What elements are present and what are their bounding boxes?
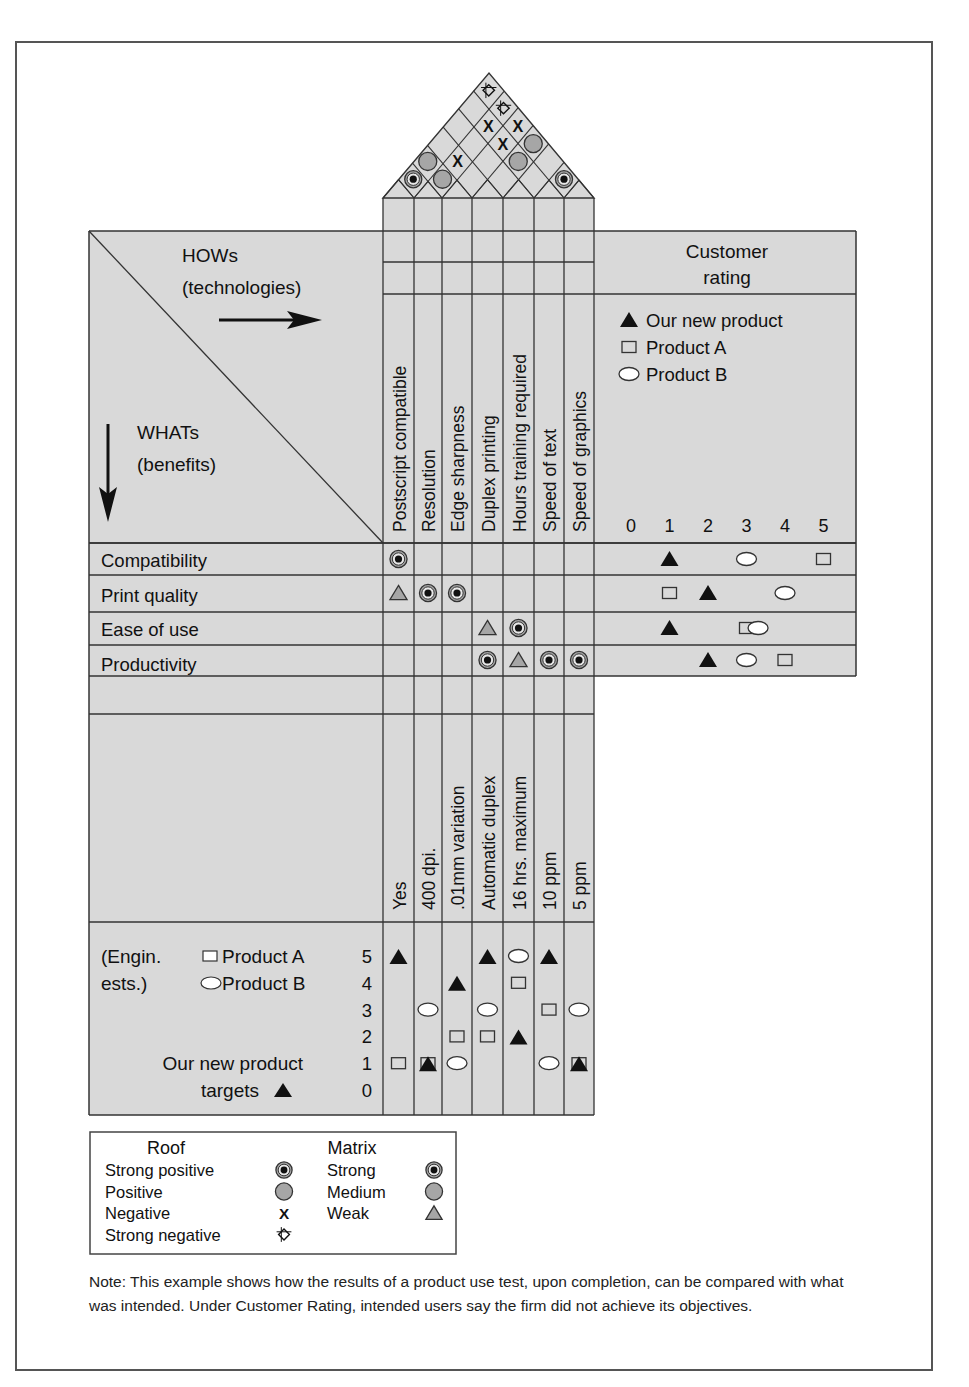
legend-label: Product B	[646, 364, 727, 385]
scale-tick: 5	[818, 516, 828, 536]
square-icon	[203, 951, 217, 961]
x-icon: X	[452, 152, 463, 170]
legend-label: Medium	[327, 1183, 386, 1201]
ellipse-icon	[447, 1057, 467, 1070]
target-value: Automatic duplex	[479, 776, 499, 910]
scale-tick: 3	[741, 516, 751, 536]
engin-label-2: ests.)	[101, 973, 147, 994]
ellipse-icon	[737, 654, 757, 667]
what-label: Compatibility	[101, 550, 208, 571]
legend-label: Weak	[327, 1204, 370, 1222]
legend-roof-title: Roof	[147, 1138, 186, 1158]
target-value: Yes	[390, 881, 410, 910]
ellipse-icon	[619, 368, 639, 381]
engin-label-1: (Engin.	[101, 946, 161, 967]
scale-tick: 0	[362, 1080, 372, 1101]
positive-icon	[509, 152, 527, 170]
legend-label: Strong positive	[105, 1161, 214, 1179]
ellipse-icon	[775, 587, 795, 600]
legend-label: Strong	[327, 1161, 376, 1179]
ellipse-icon	[418, 1003, 438, 1016]
legend-label: Product A	[646, 337, 727, 358]
hows-subtitle: (technologies)	[182, 277, 301, 298]
how-label: Hours training required	[510, 354, 530, 532]
x-icon: X	[279, 1205, 290, 1222]
square-icon	[817, 554, 831, 565]
scale-tick: 4	[362, 973, 372, 994]
square-icon	[392, 1058, 406, 1069]
how-label: Edge sharpness	[448, 405, 468, 532]
hows-title: HOWs	[182, 245, 238, 266]
whats-title: WHATs	[137, 422, 199, 443]
targets-label-2: targets	[201, 1080, 259, 1101]
target-value: 400 dpi.	[419, 848, 439, 910]
ellipse-icon	[539, 1057, 559, 1070]
legend-label: Negative	[105, 1204, 170, 1222]
how-label: Duplex printing	[479, 415, 499, 532]
target-value: 16 hrs. maximum	[510, 776, 530, 910]
scale-tick: 1	[664, 516, 674, 536]
note-text: Note: This example shows how the results…	[89, 1270, 869, 1318]
target-value: 10 ppm	[540, 852, 560, 910]
how-label: Resolution	[419, 449, 439, 532]
ellipse-icon	[509, 950, 529, 963]
x-icon: X	[513, 117, 524, 135]
ellipse-icon	[569, 1003, 589, 1016]
legend-label: Positive	[105, 1183, 163, 1201]
scale-tick: 4	[780, 516, 790, 536]
what-label: Ease of use	[101, 619, 199, 640]
what-label: Productivity	[101, 654, 197, 675]
engin-legend-b: Product B	[222, 973, 305, 994]
scale-tick: 2	[703, 516, 713, 536]
square-icon	[542, 1004, 556, 1015]
ellipse-icon	[737, 553, 757, 566]
engin-legend-a: Product A	[222, 946, 305, 967]
square-icon	[622, 342, 636, 353]
positive-icon	[419, 152, 437, 170]
targets-label-1: Our new product	[163, 1053, 304, 1074]
ellipse-icon	[478, 1003, 498, 1016]
medium-icon	[425, 1183, 442, 1200]
how-label: Speed of graphics	[570, 391, 590, 532]
x-icon: X	[498, 135, 509, 153]
how-label: Speed of text	[540, 429, 560, 532]
positive-icon	[524, 135, 542, 153]
scale-tick: 5	[362, 946, 372, 967]
customer-rating-title-2: rating	[703, 267, 751, 288]
square-icon	[778, 655, 792, 666]
target-value: 5 ppm	[570, 861, 590, 910]
scale-tick: 0	[626, 516, 636, 536]
ellipse-icon	[748, 622, 768, 635]
house-of-quality-diagram: XXXX HOWs (technologies) WHATs (benefits…	[0, 0, 969, 1387]
what-label: Print quality	[101, 585, 198, 606]
square-icon	[512, 977, 526, 988]
positive-icon	[433, 170, 451, 188]
target-value: .01mm variation	[448, 786, 468, 911]
symbol-legend: Roof Matrix Strong positivePositiveNegat…	[90, 1132, 456, 1254]
scale-tick: 1	[362, 1053, 372, 1074]
customer-rating-title-1: Customer	[686, 241, 769, 262]
square-icon	[450, 1031, 464, 1042]
scale-tick: 2	[362, 1026, 372, 1047]
how-label: Postscript compatible	[390, 366, 410, 532]
legend-matrix-title: Matrix	[328, 1138, 377, 1158]
square-icon	[663, 588, 677, 599]
legend-label: Our new product	[646, 310, 783, 331]
x-icon: X	[483, 117, 494, 135]
positive-icon	[275, 1183, 292, 1200]
ellipse-icon	[201, 977, 221, 989]
legend-label: Strong negative	[105, 1226, 221, 1244]
square-icon	[481, 1031, 495, 1042]
whats-subtitle: (benefits)	[137, 454, 216, 475]
scale-tick: 3	[362, 1000, 372, 1021]
customer-rating-bg	[594, 231, 856, 676]
